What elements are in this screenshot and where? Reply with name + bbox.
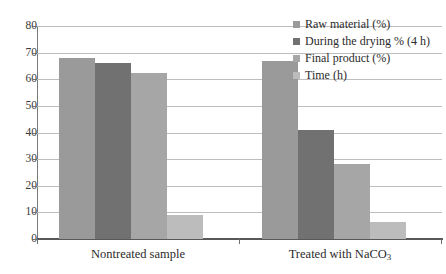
legend-item[interactable]: Final product (%) <box>293 51 443 66</box>
legend-item[interactable]: Time (h) <box>293 68 443 83</box>
x-category-label: Nontreated sample <box>37 247 239 261</box>
bar <box>262 61 298 239</box>
legend-item-label: Raw material (%) <box>305 18 390 31</box>
bar <box>131 73 167 239</box>
legend-swatch-icon <box>293 38 300 45</box>
bar <box>298 130 334 239</box>
legend-item[interactable]: Raw material (%) <box>293 17 443 32</box>
x-category-label-subscript: 3 <box>387 252 392 262</box>
legend: Raw material (%) During the drying % (4 … <box>293 17 443 85</box>
x-tick-mark <box>441 239 442 244</box>
x-tick-mark <box>239 239 240 244</box>
bar <box>95 63 131 239</box>
x-category-label: Treated with NaCO3 <box>239 247 441 262</box>
legend-swatch-icon <box>293 55 300 62</box>
x-category-label-text: Nontreated sample <box>91 247 185 261</box>
bar <box>370 222 406 239</box>
legend-item[interactable]: During the drying % (4 h) <box>293 34 443 49</box>
bar <box>167 215 203 239</box>
x-category-label-text: Treated with NaCO <box>289 247 387 261</box>
legend-item-label: During the drying % (4 h) <box>305 35 430 48</box>
legend-swatch-icon <box>293 72 300 79</box>
x-tick-mark <box>37 239 38 244</box>
legend-swatch-icon <box>293 21 300 28</box>
bar <box>334 164 370 239</box>
bar-chart: 80 70 60 50 40 30 20 10 0 <box>0 0 446 274</box>
legend-item-label: Time (h) <box>305 69 347 82</box>
legend-item-label: Final product (%) <box>305 52 390 65</box>
bar <box>59 58 95 239</box>
